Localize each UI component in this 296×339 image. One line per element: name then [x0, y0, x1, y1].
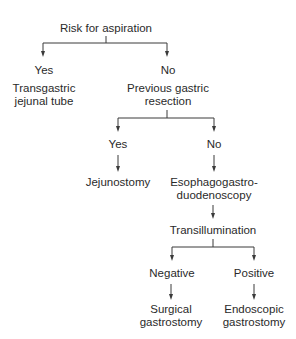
arrow-positive-to-endoscopic [252, 284, 256, 300]
node-aspiration-yes: Yes [35, 64, 54, 76]
node-transgastric-jejunal-tube-line1: Transgastric [13, 82, 76, 94]
branch-connector-resection [116, 110, 216, 132]
arrow-no-to-egd [212, 155, 216, 172]
branch-connector-transillumination [170, 239, 256, 261]
arrow-down-icon [116, 166, 120, 172]
node-egd-line1: Esophagogastro- [170, 176, 258, 188]
flowchart: Risk for aspiration Yes Transgastric jej… [0, 0, 296, 339]
node-endoscopic-gastrostomy-line1: Endoscopic [224, 303, 284, 315]
node-surgical-gastrostomy-line1: Surgical [150, 303, 192, 315]
node-resection-yes: Yes [109, 138, 128, 150]
branch-connector-aspiration [41, 36, 169, 57]
node-endoscopic-gastrostomy-line2: gastrostomy [223, 316, 286, 328]
node-jejunostomy: Jejunostomy [86, 176, 151, 188]
arrow-down-icon [41, 51, 45, 57]
node-transgastric-jejunal-tube-line2: jejunal tube [14, 95, 74, 107]
node-aspiration-no: No [161, 64, 176, 76]
node-resection-no: No [207, 138, 222, 150]
arrow-down-icon [165, 51, 169, 57]
node-transillumination: Transillumination [170, 224, 257, 236]
node-negative: Negative [149, 267, 194, 279]
arrow-yes-to-jejunostomy [116, 155, 120, 172]
node-risk-for-aspiration: Risk for aspiration [60, 22, 152, 34]
arrow-down-icon [170, 255, 174, 261]
node-previous-gastric-resection-line2: resection [145, 95, 192, 107]
node-previous-gastric-resection-line1: Previous gastric [127, 82, 209, 94]
arrow-down-icon [211, 213, 215, 219]
arrow-down-icon [212, 126, 216, 132]
arrow-egd-to-transillumination [211, 205, 215, 219]
arrow-down-icon [169, 294, 173, 300]
node-positive: Positive [234, 267, 274, 279]
arrow-negative-to-surgical [169, 284, 173, 300]
node-egd-line2: duodenoscopy [177, 189, 252, 201]
arrow-down-icon [252, 255, 256, 261]
arrow-down-icon [212, 166, 216, 172]
arrow-down-icon [116, 126, 120, 132]
arrow-down-icon [252, 294, 256, 300]
node-surgical-gastrostomy-line2: gastrostomy [140, 316, 203, 328]
